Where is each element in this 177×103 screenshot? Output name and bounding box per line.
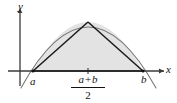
x-axis-arrowhead (159, 69, 164, 74)
right-endpoint-label: b (141, 74, 147, 85)
x-axis-label: x (166, 64, 171, 75)
fraction-numerator-right: b (92, 73, 98, 85)
point-a-marker (32, 70, 35, 73)
left-endpoint-label: a (30, 76, 36, 87)
parabola-figure: y x a b a+b 2 (0, 0, 177, 103)
y-axis-label: y (18, 1, 23, 12)
fraction-denominator: 2 (66, 88, 110, 102)
midpoint-fraction-label: a+b 2 (66, 74, 110, 101)
fraction-numerator-operator: + (84, 73, 92, 85)
fraction-numerator: a+b (66, 74, 110, 86)
